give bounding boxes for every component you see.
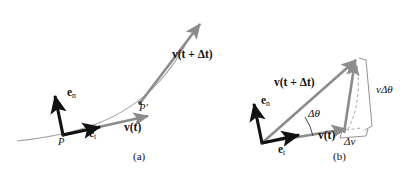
label-point-Pprime-a: P′ [139, 103, 148, 114]
caption-panel-b: (b) [333, 151, 346, 162]
label-delta-v-b: Δv [344, 136, 355, 147]
label-point-P-a: P [58, 137, 64, 148]
delta-v-vector-b [344, 61, 355, 133]
label-delta-theta-b: Δθ [308, 108, 320, 119]
velocity-vector-tdt-a [140, 24, 200, 103]
label-velocity-tdt-b: v(t + Δt) [274, 77, 315, 89]
label-unit-tangent-a: et [89, 128, 96, 141]
unit-normal-vector-a [55, 96, 63, 135]
unit-normal-vector-b [254, 104, 262, 143]
label-v-delta-theta-b: vΔθ [376, 84, 393, 95]
delta-theta-arc [305, 117, 313, 136]
figure-canvas [0, 0, 413, 175]
label-unit-normal-a: en [67, 87, 76, 100]
label-unit-tangent-b: et [278, 144, 285, 157]
panel-b-graphics [254, 58, 372, 145]
label-velocity-tdt-a: v(t + Δt) [172, 49, 213, 61]
panel-a-graphics [17, 24, 200, 141]
label-velocity-t-b: v(t) [318, 130, 335, 142]
label-unit-normal-b: en [261, 95, 270, 108]
physics-figure: en et v(t) v(t + Δt) P P′ (a) en et v(t)… [0, 0, 413, 175]
origin-marker-b [260, 141, 263, 144]
v-delta-theta-bracket [359, 58, 372, 130]
label-velocity-t-a: v(t) [124, 122, 141, 134]
caption-panel-a: (a) [133, 151, 145, 162]
